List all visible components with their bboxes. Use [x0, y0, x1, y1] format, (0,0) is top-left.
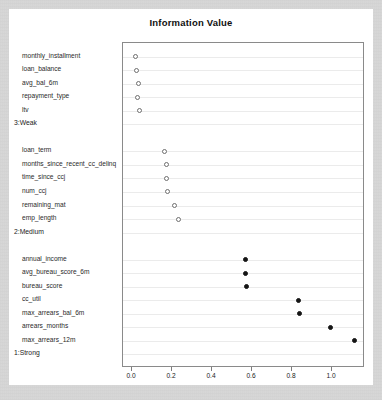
y-axis-item-label: annual_income [9, 255, 118, 263]
x-axis-tick [131, 367, 132, 371]
x-axis-tick-label: 0.0 [126, 372, 135, 379]
data-point [243, 271, 248, 276]
gridline [123, 314, 363, 315]
y-axis-item-label: time_since_ccj [9, 173, 118, 181]
y-axis-labels: 1:Strongmax_arrears_12marrears_monthsmax… [9, 9, 122, 385]
gridline [123, 70, 363, 71]
data-point [137, 108, 142, 113]
gridline [123, 124, 363, 125]
gridline [123, 341, 363, 342]
y-axis-item-label: remaining_mat [9, 201, 118, 209]
gridline [123, 97, 363, 98]
y-axis-item-label: avg_bureau_score_6m [9, 268, 118, 276]
y-axis-item-label: months_since_recent_cc_delinq [9, 160, 118, 168]
gridline [123, 233, 363, 234]
data-point [136, 81, 141, 86]
gridline [123, 192, 363, 193]
gridline [123, 111, 363, 112]
y-axis-item-label: num_ccj [9, 187, 118, 195]
x-axis-tick-label: 0.2 [166, 372, 175, 379]
data-point [244, 284, 249, 289]
gridline [123, 84, 363, 85]
y-axis-item-label: loan_term [9, 146, 118, 154]
y-axis-group-label: 1:Strong [9, 349, 118, 357]
plot-area [122, 42, 364, 367]
gridline [123, 178, 363, 179]
data-point [133, 54, 138, 59]
gridline [123, 354, 363, 355]
y-axis-item-label: ltv [9, 106, 118, 114]
data-point [172, 203, 177, 208]
data-point [328, 325, 333, 330]
gridline [123, 57, 363, 58]
data-point [352, 338, 357, 343]
data-point [164, 162, 169, 167]
gridline [123, 206, 363, 207]
data-point [176, 217, 181, 222]
data-point [134, 68, 139, 73]
gridline [123, 287, 363, 288]
chart-card: Information Value 1:Strongmax_arrears_12… [9, 9, 373, 385]
gridline [123, 151, 363, 152]
data-point [135, 95, 140, 100]
data-point [243, 257, 248, 262]
gridline [123, 300, 363, 301]
x-axis-tick-label: 0.6 [246, 372, 255, 379]
x-axis-tick-label: 0.4 [206, 372, 215, 379]
x-axis-tick [251, 367, 252, 371]
y-axis-item-label: max_arrears_bal_6m [9, 309, 118, 317]
y-axis-item-label: arrears_months [9, 322, 118, 330]
data-point [296, 298, 301, 303]
y-axis-item-label: max_arrears_12m [9, 336, 118, 344]
gridline [123, 219, 363, 220]
y-axis-item-label: avg_bal_6m [9, 79, 118, 87]
x-axis-tick [331, 367, 332, 371]
x-axis-tick [171, 367, 172, 371]
y-axis-item-label: repayment_type [9, 92, 118, 100]
y-axis-item-label: bureau_score [9, 282, 118, 290]
data-point [164, 176, 169, 181]
data-point [297, 311, 302, 316]
data-point [165, 189, 170, 194]
y-axis-item-label: monthly_installment [9, 52, 118, 60]
x-axis: 0.00.20.40.60.81.0 [122, 367, 364, 385]
y-axis-group-label: 2:Medium [9, 228, 118, 236]
x-axis-tick [211, 367, 212, 371]
x-axis-tick [291, 367, 292, 371]
y-axis-item-label: loan_balance [9, 65, 118, 73]
y-axis-item-label: emp_length [9, 214, 118, 222]
y-axis-group-label: 3:Weak [9, 119, 118, 127]
x-axis-tick-label: 1.0 [326, 372, 335, 379]
x-axis-tick-label: 0.8 [286, 372, 295, 379]
y-axis-item-label: cc_util [9, 295, 118, 303]
gridline [123, 165, 363, 166]
data-point [162, 149, 167, 154]
